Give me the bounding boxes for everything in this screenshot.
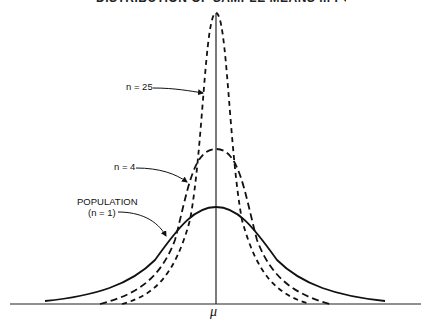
population-n-label: (n = 1) xyxy=(88,207,116,218)
population-arrow xyxy=(118,212,166,236)
n4-label: n = 4 xyxy=(114,161,135,172)
n4-curve xyxy=(100,149,330,304)
population-curve xyxy=(45,207,385,301)
distribution-diagram xyxy=(0,0,429,326)
n25-label: n = 25 xyxy=(126,81,153,92)
population-label: POPULATION xyxy=(77,196,138,207)
mu-label: μ xyxy=(210,304,217,320)
n25-arrow xyxy=(153,88,203,93)
n4-arrow xyxy=(136,168,187,182)
